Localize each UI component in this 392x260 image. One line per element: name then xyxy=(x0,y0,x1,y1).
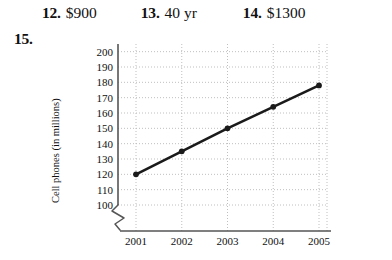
data-point-marker xyxy=(316,83,322,89)
y-tick-label: 160 xyxy=(97,107,114,119)
y-tick-label: 190 xyxy=(97,61,114,73)
answer-number-14: 14. xyxy=(243,4,262,22)
y-tick-label: 110 xyxy=(97,184,114,196)
y-tick-label: 120 xyxy=(97,168,114,180)
y-tick-label: 170 xyxy=(97,92,114,104)
line-chart: Cell phones (in millions) 10011012013014… xyxy=(46,40,346,255)
answer-item-14: 14. $1300 xyxy=(243,4,306,22)
y-axis-tick-labels: 100110120130140150160170180190200 xyxy=(97,46,114,211)
data-point-marker xyxy=(225,125,231,131)
y-axis-title: Cell phones (in millions) xyxy=(50,98,62,203)
data-point-marker xyxy=(179,148,185,154)
x-tick-label: 2003 xyxy=(217,235,240,247)
x-tick-label: 2002 xyxy=(171,235,193,247)
data-point-marker xyxy=(133,171,139,177)
answer-number-15: 15. xyxy=(14,30,33,48)
x-tick-label: 2005 xyxy=(308,235,331,247)
y-tick-label: 200 xyxy=(97,46,114,58)
chart-svg: Cell phones (in millions) 10011012013014… xyxy=(46,40,346,255)
answer-item-12: 12. $900 xyxy=(42,4,97,22)
vertical-gridlines xyxy=(136,44,327,231)
answer-row: 12. $900 13. 40 yr 14. $1300 xyxy=(0,4,392,30)
data-point-marker xyxy=(270,104,276,110)
answer-item-13: 13. 40 yr xyxy=(141,4,197,22)
y-tick-label: 100 xyxy=(97,199,114,211)
x-tick-label: 2004 xyxy=(262,235,285,247)
x-tick-label: 2001 xyxy=(125,235,147,247)
answer-number-13: 13. xyxy=(141,4,160,22)
y-tick-label: 180 xyxy=(97,76,114,88)
y-tick-label: 150 xyxy=(97,122,114,134)
y-tick-label: 130 xyxy=(97,153,114,165)
answer-value-13: 40 yr xyxy=(165,4,197,22)
answer-value-14: $1300 xyxy=(267,4,306,22)
y-tick-label: 140 xyxy=(97,138,114,150)
y-axis-break-icon xyxy=(112,205,124,230)
answer-value-12: $900 xyxy=(66,4,97,22)
x-axis-tick-labels: 20012002200320042005 xyxy=(125,235,331,247)
horizontal-gridlines xyxy=(118,52,327,205)
answer-number-12: 12. xyxy=(42,4,61,22)
